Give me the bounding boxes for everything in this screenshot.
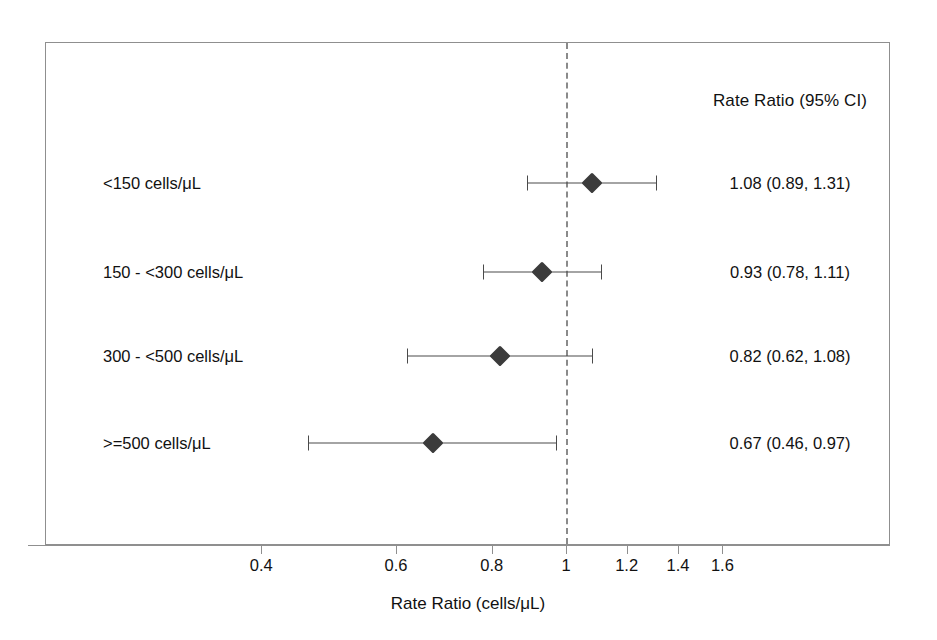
ci-lower-cap <box>407 349 408 364</box>
x-axis-tick <box>492 545 493 554</box>
row-estimate-text: 0.82 (0.62, 1.08) <box>650 347 930 366</box>
row-estimate-text: 1.08 (0.89, 1.31) <box>650 174 930 193</box>
x-axis-tick <box>396 545 397 554</box>
plot-frame <box>45 42 890 545</box>
row-label: >=500 cells/μL <box>103 434 211 453</box>
x-axis-tick-label: 0.4 <box>250 556 273 575</box>
row-label: 150 - <300 cells/μL <box>103 263 243 282</box>
ci-lower-cap <box>527 176 528 191</box>
x-axis-tick-label: 1 <box>561 556 570 575</box>
row-label: <150 cells/μL <box>103 174 201 193</box>
forest-plot-figure: Rate Ratio (95% CI) <150 cells/μL1.08 (0… <box>0 0 937 640</box>
x-axis-tick-label: 0.6 <box>385 556 408 575</box>
x-axis-title: Rate Ratio (cells/μL) <box>391 594 545 614</box>
ci-upper-cap <box>601 265 602 280</box>
row-estimate-text: 0.93 (0.78, 1.11) <box>650 263 930 282</box>
x-axis-tick <box>261 545 262 554</box>
x-axis-tick-label: 1.4 <box>666 556 689 575</box>
x-axis-tick <box>566 545 567 554</box>
row-label: 300 - <500 cells/μL <box>103 347 243 366</box>
x-axis-tick-label: 0.8 <box>480 556 503 575</box>
x-axis-tick-label: 1.2 <box>615 556 638 575</box>
estimate-column-header: Rate Ratio (95% CI) <box>650 91 930 111</box>
ci-upper-cap <box>556 436 557 451</box>
x-axis-tick <box>627 545 628 554</box>
x-axis-tick <box>722 545 723 554</box>
ci-lower-cap <box>308 436 309 451</box>
ci-upper-cap <box>592 349 593 364</box>
x-axis-tick-label: 1.6 <box>711 556 734 575</box>
x-axis-line <box>28 545 890 546</box>
row-estimate-text: 0.67 (0.46, 0.97) <box>650 434 930 453</box>
reference-line <box>566 43 568 544</box>
ci-lower-cap <box>483 265 484 280</box>
x-axis-tick <box>678 545 679 554</box>
